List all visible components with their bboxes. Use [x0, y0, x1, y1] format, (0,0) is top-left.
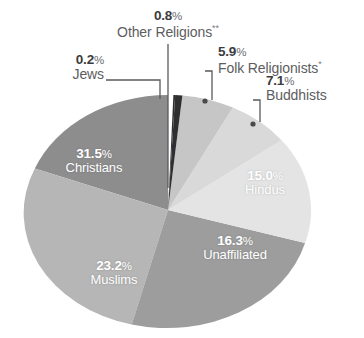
- leader-dot-buddhists: [250, 121, 255, 126]
- pie-slices: [24, 95, 311, 328]
- callout-name-other-religions: Other Religions**: [92, 23, 244, 40]
- slice-name-christians: Christians: [36, 161, 152, 176]
- slice-label-unaffiliated: 16.3% Unaffiliated: [172, 233, 298, 263]
- slice-label-hindus: 15.0% Hindus: [218, 168, 312, 198]
- slice-name-unaffiliated: Unaffiliated: [172, 248, 298, 263]
- callout-folk-religionists: 5.9% Folk Religionists*: [218, 44, 322, 76]
- slice-label-muslims: 23.2% Muslims: [62, 258, 166, 288]
- callout-value-folk-religionists: 5.9%: [218, 44, 322, 59]
- callout-buddhists: 7.1% Buddhists: [266, 73, 327, 104]
- slice-value-unaffiliated: 16.3%: [172, 233, 298, 248]
- slice-value-christians: 31.5%: [36, 146, 152, 161]
- callout-other-religions: 0.8% Other Religions**: [92, 8, 244, 40]
- slice-value-hindus: 15.0%: [218, 168, 312, 183]
- leader-dot-folk-religionists: [202, 98, 207, 103]
- callout-jews: 0.2% Jews: [20, 52, 104, 83]
- callout-value-jews: 0.2%: [20, 52, 104, 67]
- slice-name-muslims: Muslims: [62, 273, 166, 288]
- pie-chart-figure: 0.8% Other Religions** 0.2% Jews 5.9% Fo…: [0, 0, 364, 338]
- callout-value-other-religions: 0.8%: [92, 8, 244, 23]
- leader-line-folk-religionists: [205, 71, 212, 100]
- slice-label-christians: 31.5% Christians: [36, 146, 152, 176]
- callout-value-buddhists: 7.1%: [266, 73, 327, 88]
- slice-value-muslims: 23.2%: [62, 258, 166, 273]
- callout-name-jews: Jews: [20, 67, 104, 83]
- callout-name-buddhists: Buddhists: [266, 88, 327, 104]
- slice-name-hindus: Hindus: [218, 183, 312, 198]
